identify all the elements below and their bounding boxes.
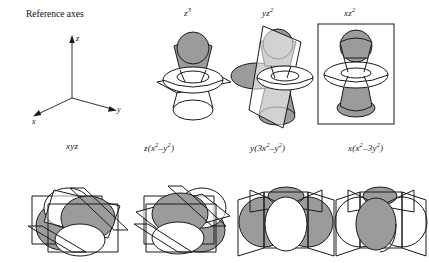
- orbital-diagram-y3x2-y2: [234, 182, 338, 258]
- orbital-diagram-zx2-y2: [128, 182, 238, 258]
- orbital-diagram-xx2-3y2: [334, 182, 429, 258]
- orbital-label-xx2-3y2: x(x2–3y2): [348, 141, 383, 153]
- orbital-diagram-xz2: [312, 20, 400, 132]
- axis-label-y: y: [116, 105, 121, 114]
- axis-label-x: x: [31, 117, 36, 126]
- reference-axes-title: Reference axes: [26, 9, 84, 19]
- orbital-label-yz2: yz2: [262, 6, 273, 18]
- orbital-diagram-yz2: [227, 18, 319, 134]
- reference-axes-diagram: z y x: [20, 24, 130, 124]
- orbital-diagram-z3: [147, 20, 239, 132]
- orbital-label-xyz: xyz: [66, 141, 78, 151]
- orbital-label-xz2: xz2: [344, 6, 355, 18]
- orbital-label-y3x2-y2: y(3x2–y2): [250, 141, 285, 153]
- orbital-label-z3: z3: [184, 6, 191, 18]
- f-orbital-figure: Reference axes z y x z3 yz2 xz2: [0, 0, 429, 263]
- orbital-label-zx2-y2: z(x2–y2): [144, 141, 174, 153]
- axis-label-z: z: [75, 34, 80, 43]
- orbital-diagram-xyz: [24, 182, 136, 258]
